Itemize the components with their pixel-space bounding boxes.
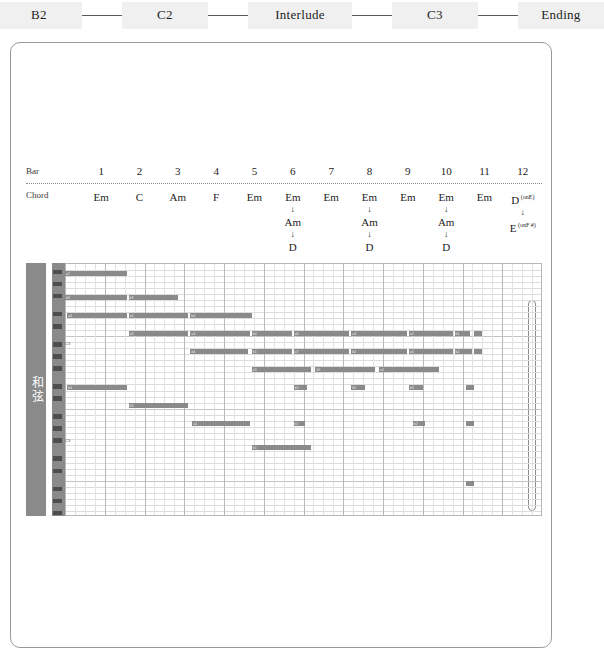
section-chip-b2[interactable]: B2 <box>0 2 82 29</box>
grid-beat-line <box>373 264 374 515</box>
grid-beat-line <box>274 264 275 515</box>
piano-black-key[interactable] <box>53 282 62 287</box>
piano-roll-note[interactable]: a2 <box>409 331 453 336</box>
piano-roll-note[interactable]: b1 <box>252 349 292 354</box>
piano-roll-note[interactable]: b4 <box>252 331 292 336</box>
bar-number: 6 <box>274 164 312 178</box>
piano-black-key[interactable] <box>53 294 62 299</box>
piano-roll-note[interactable]: a4 <box>129 313 189 318</box>
track-name-label: 和弦 <box>30 376 42 404</box>
section-chip-c2[interactable]: C2 <box>122 2 208 29</box>
piano-roll-note[interactable]: a5 <box>252 367 312 372</box>
piano-keyboard[interactable] <box>52 263 65 516</box>
piano-roll-note[interactable]: b4 <box>67 385 127 390</box>
piano-roll-note[interactable]: a6 <box>190 349 248 354</box>
piano-roll-note[interactable]: b5 <box>315 367 375 372</box>
grid-beat-line <box>453 264 454 515</box>
piano-roll-note[interactable]: a5 <box>379 367 439 372</box>
piano-roll-note[interactable]: b2 <box>351 349 407 354</box>
piano-roll-note[interactable] <box>466 385 474 390</box>
piano-black-key[interactable] <box>53 426 62 431</box>
piano-roll-note[interactable]: b1 <box>294 421 306 426</box>
section-chip-c3[interactable]: C3 <box>392 2 478 29</box>
track-name-column[interactable]: 和弦 <box>26 263 46 516</box>
piano-black-key[interactable] <box>53 511 62 516</box>
bar-column: 10Em↓Am↓D <box>427 164 465 254</box>
note-label: b1 <box>253 445 257 451</box>
piano-roll-note[interactable]: b3 <box>129 403 189 408</box>
piano-roll-note[interactable]: b3 <box>294 385 308 390</box>
note-label: b1 <box>253 349 257 355</box>
chord-name: Em <box>400 190 415 204</box>
piano-roll-note[interactable]: a4 <box>67 313 127 318</box>
bar-column: 1Em <box>82 164 120 204</box>
grid-beat-line <box>512 264 513 515</box>
piano-roll-grid[interactable]: a7b3b3a4a4b4a3a3b4a6a4a2b1a6b1a7b2a3b2a5… <box>65 263 542 516</box>
chord-stack: C <box>121 190 159 204</box>
piano-roll-note[interactable] <box>466 421 474 426</box>
piano-roll[interactable]: a7b3b3a4a4b4a3a3b4a6a4a2b1a6b1a7b2a3b2a5… <box>52 263 542 516</box>
note-label: a2 <box>410 331 414 337</box>
piano-roll-note[interactable]: b1 <box>455 331 471 336</box>
piano-roll-note[interactable]: a3 <box>409 349 453 354</box>
piano-roll-note[interactable] <box>474 349 482 354</box>
chord-stack: Em↓Am↓D <box>274 190 312 254</box>
piano-black-key[interactable] <box>53 456 62 461</box>
piano-black-key[interactable] <box>53 469 62 474</box>
piano-black-key[interactable] <box>53 270 62 275</box>
chord-stack: Am <box>159 190 197 204</box>
piano-roll-note[interactable]: a4 <box>351 331 407 336</box>
piano-roll-note[interactable]: b3 <box>65 295 127 300</box>
chord-stack: F <box>197 190 235 204</box>
piano-black-key[interactable] <box>53 384 62 389</box>
grid-beat-line <box>204 264 205 515</box>
piano-roll-note[interactable] <box>466 481 474 486</box>
piano-roll-note[interactable]: b2 <box>413 421 425 426</box>
piano-roll-note[interactable]: a6 <box>294 331 350 336</box>
piano-roll-note[interactable]: a3 <box>190 331 250 336</box>
chord-name: Em <box>285 190 300 204</box>
bar-columns: 1Em2C3Am4F5Em6Em↓Am↓D7Em8Em↓Am↓D9Em10Em↓… <box>82 164 542 256</box>
chord-name: Em <box>362 190 377 204</box>
grid-beat-line <box>492 264 493 515</box>
piano-black-key[interactable] <box>53 354 62 359</box>
grid-beat-line <box>323 264 324 515</box>
piano-black-key[interactable] <box>53 438 62 443</box>
piano-black-key[interactable] <box>53 396 62 401</box>
chord-name: Am <box>361 215 378 229</box>
piano-roll-note[interactable]: a3 <box>129 331 189 336</box>
piano-black-key[interactable] <box>53 324 62 329</box>
note-label: a6 <box>191 349 195 355</box>
piano-roll-note[interactable]: b2 <box>455 349 473 354</box>
note-label: a7 <box>295 349 299 355</box>
piano-roll-note[interactable] <box>474 331 482 336</box>
note-label: a5 <box>253 367 257 373</box>
piano-black-key[interactable] <box>53 487 62 492</box>
piano-black-key[interactable] <box>53 366 62 371</box>
piano-black-key[interactable] <box>53 312 62 317</box>
piano-black-key[interactable] <box>53 414 62 419</box>
chord-name: D <box>289 240 297 254</box>
piano-roll-note[interactable]: a1 <box>192 421 250 426</box>
piano-roll-note[interactable]: b3 <box>409 385 423 390</box>
section-separator <box>208 15 248 16</box>
note-label: b4 <box>253 331 257 337</box>
note-label: a1 <box>193 421 197 427</box>
chord-row-label: Chord <box>26 190 49 200</box>
grid-beat-line <box>164 264 165 515</box>
chord-name: Am <box>438 215 455 229</box>
section-chip-ending[interactable]: Ending <box>518 2 604 29</box>
section-chip-interlude[interactable]: Interlude <box>248 2 352 29</box>
piano-black-key[interactable] <box>53 342 62 347</box>
bar-column: 7Em <box>312 164 350 204</box>
piano-roll-note[interactable]: b1 <box>252 445 312 450</box>
piano-roll-note[interactable]: b5 <box>351 385 365 390</box>
note-label: b4 <box>68 385 72 391</box>
piano-roll-note[interactable]: b4 <box>190 313 252 318</box>
piano-roll-note[interactable]: a7 <box>294 349 350 354</box>
piano-roll-note[interactable]: a7 <box>65 271 127 276</box>
piano-roll-note[interactable]: b3 <box>129 295 179 300</box>
chord-stack: Em <box>82 190 120 204</box>
piano-black-key[interactable] <box>53 499 62 504</box>
note-label: b1 <box>295 421 299 427</box>
